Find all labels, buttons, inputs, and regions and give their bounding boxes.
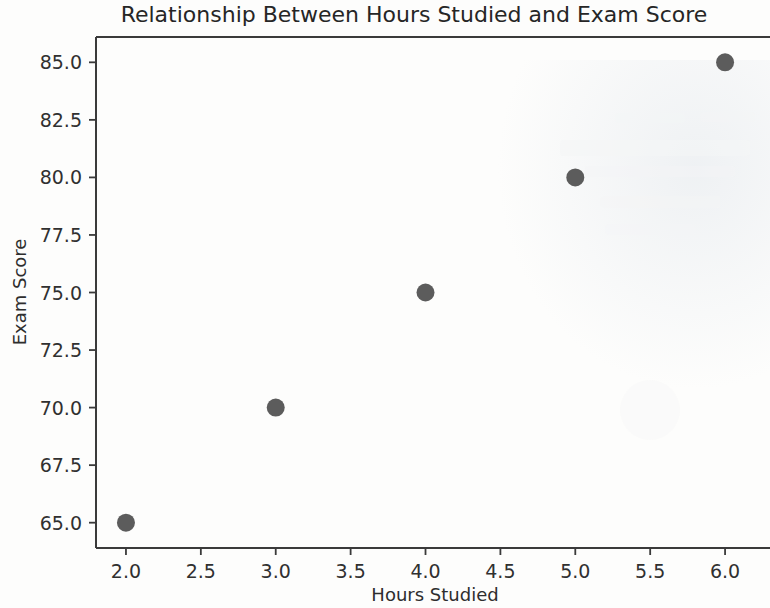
x-tick-label: 4.5	[485, 560, 515, 582]
y-tick-label: 82.5	[40, 109, 82, 131]
x-tick-label: 3.5	[336, 560, 366, 582]
scatter-point[interactable]	[716, 53, 734, 71]
y-tick-label: 77.5	[40, 224, 82, 246]
y-tick-label: 75.0	[40, 282, 82, 304]
y-axis-ticks: 85.0 82.5 80.0 77.5 75.0 72.5 70.0 67.5	[40, 51, 96, 533]
scatter-point[interactable]	[117, 514, 135, 532]
x-axis-title: Hours Studied	[371, 584, 498, 605]
x-tick-label: 4.0	[410, 560, 440, 582]
y-tick-label: 70.0	[40, 397, 82, 419]
scatter-point[interactable]	[417, 284, 435, 302]
scatter-plot-svg: Relationship Between Hours Studied and E…	[0, 0, 770, 608]
y-tick-label: 85.0	[40, 51, 82, 73]
x-tick-label: 2.0	[111, 560, 141, 582]
scatter-point[interactable]	[267, 399, 285, 417]
chart-title: Relationship Between Hours Studied and E…	[121, 2, 708, 27]
y-tick-label: 72.5	[40, 339, 82, 361]
y-tick-label: 67.5	[40, 454, 82, 476]
scatter-point[interactable]	[566, 168, 584, 186]
y-axis-title: Exam Score	[9, 239, 30, 346]
y-tick-label: 65.0	[40, 512, 82, 534]
x-tick-label: 5.5	[635, 560, 665, 582]
scatter-points-group	[117, 53, 734, 531]
x-tick-label: 3.0	[261, 560, 291, 582]
x-tick-label: 5.0	[560, 560, 590, 582]
figure-canvas: Relationship Between Hours Studied and E…	[0, 0, 770, 608]
y-tick-label: 80.0	[40, 166, 82, 188]
x-tick-label: 6.0	[710, 560, 740, 582]
x-tick-label: 2.5	[186, 560, 216, 582]
x-axis-ticks: 2.0 2.5 3.0 3.5 4.0 4.5 5.0 5.5 6.0	[111, 548, 740, 582]
